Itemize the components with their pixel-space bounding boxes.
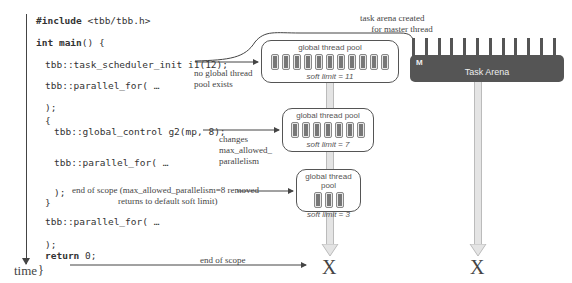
thread-icon: [284, 56, 288, 68]
global-thread-pool-3: global thread pool soft limit = 3: [296, 169, 361, 212]
arena-lifetime-shaft: [474, 82, 482, 247]
thread-slot: [271, 54, 279, 70]
thread-slot: [302, 122, 310, 138]
thread-slot: [381, 54, 389, 70]
pool-title: global thread pool: [297, 172, 360, 190]
pool-end-x: X: [322, 256, 336, 279]
thread-icon: [348, 124, 352, 136]
thread-icon: [306, 56, 310, 68]
thread-slot: [335, 122, 343, 138]
arena-slot: [502, 38, 505, 56]
arena-slot: [489, 38, 492, 56]
thread-slot: [346, 122, 354, 138]
annotation-no-pool: no global thread pool exists: [194, 68, 252, 90]
master-thread-marker: M: [416, 58, 423, 67]
thread-icon: [339, 56, 343, 68]
arena-slot: [438, 38, 441, 56]
arena-slot: [527, 38, 530, 56]
arena-slot: [553, 38, 556, 56]
thread-icon: [361, 56, 365, 68]
thread-slots: [283, 122, 373, 138]
arena-slot: [476, 38, 479, 56]
thread-icon: [372, 56, 376, 68]
global-thread-pool-1: global thread pool soft limit = 11: [261, 40, 399, 83]
pool-title: global thread pool: [262, 43, 398, 52]
thread-icon: [328, 56, 332, 68]
arena-slot: [463, 38, 466, 56]
thread-slot: [337, 54, 345, 70]
thread-slot: [359, 54, 367, 70]
thread-slot: [336, 192, 344, 208]
thread-icon: [337, 124, 341, 136]
thread-slot: [293, 54, 301, 70]
arena-slot: [540, 38, 543, 56]
thread-slot: [348, 54, 356, 70]
thread-icon: [295, 56, 299, 68]
thread-slot: [304, 54, 312, 70]
arena-teeth: [410, 38, 564, 56]
thread-icon: [338, 194, 342, 206]
thread-slot: [357, 122, 365, 138]
task-arena-label: Task Arena: [410, 67, 564, 77]
annotation-end-scope-1b: returns to default soft limit): [118, 196, 217, 207]
thread-slot: [324, 122, 332, 138]
annotation-end-scope-2: end of scope: [200, 255, 245, 266]
soft-limit-label: soft limit = 11: [262, 72, 398, 81]
thread-slot: [291, 122, 299, 138]
thread-icon: [315, 124, 319, 136]
thread-slot: [370, 54, 378, 70]
annotation-arena-created: task arena created for master thread: [360, 13, 433, 35]
soft-limit-label: soft limit = 7: [283, 140, 373, 149]
pool-title: global thread pool: [283, 111, 373, 120]
annotation-changes: changes max_allowed_ parallelism: [219, 134, 272, 167]
thread-icon: [359, 124, 363, 136]
arena-slot: [450, 38, 453, 56]
thread-icon: [317, 56, 321, 68]
thread-slot: [313, 122, 321, 138]
thread-slots: [262, 54, 398, 70]
soft-limit-label: soft limit = 3: [297, 210, 360, 219]
thread-icon: [326, 124, 330, 136]
thread-slot: [315, 54, 323, 70]
thread-slot: [282, 54, 290, 70]
thread-icon: [383, 56, 387, 68]
thread-slot: [314, 192, 322, 208]
task-arena: M Task Arena: [410, 38, 564, 82]
thread-slot: [325, 192, 333, 208]
arena-slot: [514, 38, 517, 56]
thread-slot: [326, 54, 334, 70]
thread-icon: [293, 124, 297, 136]
annotation-end-scope-1: end of scope (max_allowed_parallelism=8 …: [72, 185, 259, 196]
arena-end-x: X: [470, 256, 484, 279]
thread-icon: [327, 194, 331, 206]
thread-icon: [316, 194, 320, 206]
global-thread-pool-2: global thread pool soft limit = 7: [282, 108, 374, 152]
pool-lifetime-shaft: [326, 82, 334, 247]
thread-icon: [350, 56, 354, 68]
arena-slot: [412, 38, 415, 56]
arena-slot: [425, 38, 428, 56]
thread-slots: [297, 192, 360, 208]
thread-icon: [304, 124, 308, 136]
thread-icon: [273, 56, 277, 68]
